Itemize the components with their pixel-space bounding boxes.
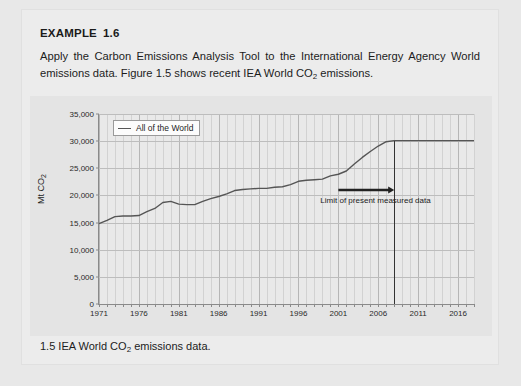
x-axis-tick-mark <box>251 304 252 307</box>
x-axis-tick-mark <box>306 304 307 307</box>
figure-caption-part2: emissions data. <box>131 340 210 352</box>
x-axis-tick-mark <box>203 304 204 307</box>
example-body-part2: emissions. <box>317 67 373 79</box>
x-axis-tick-label: 2001 <box>329 309 347 318</box>
x-axis-tick-mark <box>314 304 315 307</box>
x-axis-tick-label: 2011 <box>410 309 427 318</box>
example-heading-label: EXAMPLE <box>40 27 97 39</box>
y-axis-tick-label: 0 <box>90 300 94 309</box>
x-axis-tick-mark <box>346 304 347 307</box>
x-axis-tick-mark <box>131 304 132 307</box>
x-axis-tick-mark <box>179 304 180 307</box>
y-axis-label: Mt CO2 <box>36 174 47 204</box>
x-axis-tick-mark <box>107 304 108 307</box>
x-axis-tick-mark <box>211 304 212 307</box>
grid-line-x-minor <box>474 114 475 304</box>
x-axis-tick-mark <box>283 304 284 307</box>
x-axis-tick-label: 1996 <box>290 309 308 318</box>
x-axis-tick-label: 2016 <box>449 309 467 318</box>
figure-caption: 1.5 IEA World CO2 emissions data. <box>40 340 211 354</box>
x-axis-tick-mark <box>450 304 451 307</box>
x-axis-tick-mark <box>378 304 379 307</box>
x-axis-tick-mark <box>139 304 140 307</box>
y-axis-tick-label: 25,000 <box>70 164 94 173</box>
y-axis-tick-label: 20,000 <box>70 191 94 200</box>
x-axis-tick-mark <box>147 304 148 307</box>
x-axis-tick-mark <box>426 304 427 307</box>
y-axis-tick-label: 30,000 <box>70 137 94 146</box>
annotation-label: Limit of present measured data <box>320 196 430 205</box>
x-axis-tick-mark <box>259 304 260 307</box>
x-axis-tick-label: 1976 <box>130 309 148 318</box>
x-axis-tick-mark <box>235 304 236 307</box>
example-body-text: Apply the Carbon Emissions Analysis Tool… <box>40 48 480 85</box>
x-axis-tick-mark <box>155 304 156 307</box>
x-axis-tick-mark <box>171 304 172 307</box>
x-axis-tick-mark <box>123 304 124 307</box>
x-axis-tick-mark <box>267 304 268 307</box>
x-axis-tick-mark <box>370 304 371 307</box>
x-axis-tick-mark <box>99 304 100 307</box>
x-axis-tick-mark <box>322 304 323 307</box>
x-axis-tick-mark <box>362 304 363 307</box>
x-axis-tick-label: 1986 <box>210 309 228 318</box>
annotation-arrow-icon <box>99 114 474 304</box>
x-axis-tick-mark <box>466 304 467 307</box>
figure-caption-part1: IEA World CO <box>58 340 126 352</box>
x-axis-tick-mark <box>330 304 331 307</box>
emissions-chart: Mt CO2 05,00010,00015,00020,00025,00030,… <box>30 96 492 336</box>
x-axis-tick-label: 2006 <box>369 309 387 318</box>
y-axis-tick-label: 35,000 <box>70 110 94 119</box>
x-axis-tick-mark <box>298 304 299 307</box>
example-heading: EXAMPLE1.6 <box>40 27 120 39</box>
x-axis-tick-mark <box>402 304 403 307</box>
figure-caption-number: 1.5 <box>40 340 55 352</box>
x-axis-tick-mark <box>338 304 339 307</box>
x-axis-tick-mark <box>474 304 475 307</box>
example-body-part1: Apply the Carbon Emissions Analysis Tool… <box>40 50 480 79</box>
x-axis-tick-mark <box>243 304 244 307</box>
y-axis-label-prefix: Mt CO <box>36 178 46 204</box>
x-axis-tick-mark <box>219 304 220 307</box>
x-axis-tick-mark <box>187 304 188 307</box>
x-axis-tick-mark <box>290 304 291 307</box>
x-axis-tick-mark <box>195 304 196 307</box>
page-root: EXAMPLE1.6 Apply the Carbon Emissions An… <box>0 0 521 386</box>
x-axis-tick-mark <box>386 304 387 307</box>
x-axis-tick-mark <box>442 304 443 307</box>
plot-area: 05,00010,00015,00020,00025,00030,00035,0… <box>98 114 474 305</box>
y-axis-tick-label: 15,000 <box>70 218 94 227</box>
x-axis-tick-mark <box>227 304 228 307</box>
x-axis-tick-mark <box>410 304 411 307</box>
example-heading-number: 1.6 <box>103 27 120 39</box>
x-axis-tick-label: 1981 <box>170 309 188 318</box>
x-axis-tick-mark <box>418 304 419 307</box>
x-axis-tick-mark <box>354 304 355 307</box>
x-axis-tick-mark <box>394 304 395 307</box>
example-panel: EXAMPLE1.6 Apply the Carbon Emissions An… <box>22 10 498 364</box>
x-axis-tick-mark <box>115 304 116 307</box>
x-axis-tick-mark <box>275 304 276 307</box>
y-axis-tick-label: 10,000 <box>70 245 94 254</box>
x-axis-tick-mark <box>434 304 435 307</box>
x-axis-tick-label: 1991 <box>250 309 268 318</box>
y-axis-label-subscript: 2 <box>40 174 47 178</box>
x-axis-tick-mark <box>163 304 164 307</box>
x-axis-tick-mark <box>458 304 459 307</box>
x-axis-tick-label: 1971 <box>90 309 108 318</box>
y-axis-tick-label: 5,000 <box>74 272 94 281</box>
